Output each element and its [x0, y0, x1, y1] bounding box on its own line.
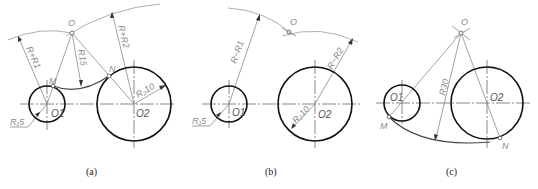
label-o: O	[290, 17, 297, 27]
label-n: N	[109, 64, 116, 74]
label-o1: O1	[51, 108, 64, 119]
label-r2: R₂10	[134, 81, 156, 100]
label-o1: O1	[232, 107, 245, 118]
caption-a: (a)	[86, 166, 97, 178]
label-o2: O2	[318, 109, 332, 120]
label-m: M	[49, 76, 57, 86]
label-r-plus-r2: R+R2	[116, 24, 131, 49]
line-o-to-m	[389, 33, 461, 117]
point-m	[387, 115, 391, 119]
panel-c: O M N O1 O2 R30 (c)	[376, 17, 532, 178]
point-n	[498, 136, 502, 140]
label-r-minus-r2: R−R2	[325, 46, 345, 71]
arc-r-plus-r2	[66, 4, 160, 36]
label-m: M	[380, 121, 388, 131]
point-o	[459, 31, 463, 35]
label-o: O	[461, 17, 468, 27]
label-r1: R₁5	[10, 117, 25, 127]
point-n	[107, 74, 111, 78]
caption-c: (c)	[446, 166, 457, 178]
arc-r-minus-r2	[282, 31, 358, 42]
label-o2: O2	[490, 92, 504, 103]
geometry-diagram: O M N O1 O2 R+R1 R15 R+R2 R₂10 R₁5 (a) O…	[0, 0, 538, 189]
caption-b: (b)	[265, 166, 277, 178]
label-r30: R30	[437, 78, 451, 96]
label-o: O	[68, 18, 75, 28]
point-o	[70, 31, 74, 35]
label-r1: R₁5	[192, 116, 207, 126]
label-o2: O2	[136, 108, 150, 119]
label-o1: O1	[390, 92, 403, 103]
line-o-to-o1	[47, 33, 72, 104]
panel-b: O O1 O2 R−R1 R−R2 R₂10 R₁5 (b)	[192, 8, 360, 178]
label-n: N	[502, 141, 509, 151]
arc-r-plus-r1	[8, 31, 72, 40]
panel-a: O M N O1 O2 R+R1 R15 R+R2 R₂10 R₁5 (a)	[8, 4, 176, 178]
label-r-minus-r1: R−R1	[228, 39, 245, 64]
label-r2: R₂10	[290, 104, 311, 125]
line-o-to-n	[461, 33, 500, 138]
